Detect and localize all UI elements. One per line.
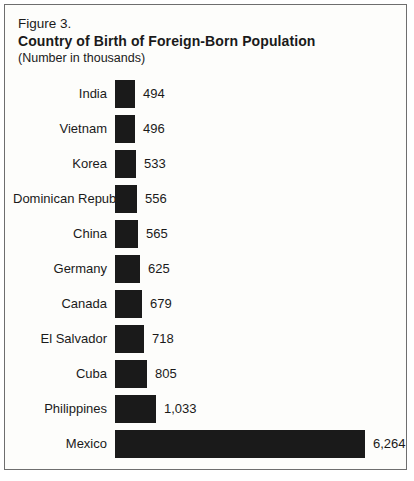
bar-row: India494 bbox=[5, 76, 406, 111]
bar-row: Cuba805 bbox=[5, 356, 406, 391]
bar-row: Mexico6,264 bbox=[5, 426, 406, 461]
category-label: Canada bbox=[13, 296, 115, 311]
bar-row: Korea533 bbox=[5, 146, 406, 181]
bar-chart: India494Vietnam496Korea533Dominican Repu… bbox=[5, 76, 406, 461]
chart-subtitle: (Number in thousands) bbox=[18, 50, 396, 66]
bar-row: Philippines1,033 bbox=[5, 391, 406, 426]
bar-row: Germany625 bbox=[5, 251, 406, 286]
value-label: 494 bbox=[143, 86, 165, 101]
value-label: 625 bbox=[148, 261, 170, 276]
category-label: Vietnam bbox=[13, 121, 115, 136]
bar bbox=[115, 115, 135, 143]
value-label: 718 bbox=[152, 331, 174, 346]
value-label: 496 bbox=[143, 121, 165, 136]
bar bbox=[115, 185, 137, 213]
bar-row: Vietnam496 bbox=[5, 111, 406, 146]
value-label: 1,033 bbox=[164, 401, 197, 416]
bar bbox=[115, 325, 144, 353]
category-label: Mexico bbox=[13, 436, 115, 451]
bar bbox=[115, 220, 138, 248]
value-label: 533 bbox=[144, 156, 166, 171]
bar-row: Canada679 bbox=[5, 286, 406, 321]
category-label: Philippines bbox=[13, 401, 115, 416]
bar bbox=[115, 395, 156, 423]
bar bbox=[115, 290, 142, 318]
bar-row: El Salvador718 bbox=[5, 321, 406, 356]
bar bbox=[115, 150, 136, 178]
bar-rows: India494Vietnam496Korea533Dominican Repu… bbox=[5, 76, 406, 461]
category-label: China bbox=[13, 226, 115, 241]
chart-title: Country of Birth of Foreign-Born Populat… bbox=[18, 32, 396, 50]
bar bbox=[115, 80, 135, 108]
bar bbox=[115, 255, 140, 283]
category-label: India bbox=[13, 86, 115, 101]
value-label: 565 bbox=[146, 226, 168, 241]
bar-row: China565 bbox=[5, 216, 406, 251]
bar bbox=[115, 430, 365, 458]
figure-box: Figure 3. Country of Birth of Foreign-Bo… bbox=[4, 4, 407, 470]
bar bbox=[115, 360, 147, 388]
figure-header: Figure 3. Country of Birth of Foreign-Bo… bbox=[5, 5, 406, 66]
category-label: Germany bbox=[13, 261, 115, 276]
bar-row: Dominican Republic556 bbox=[5, 181, 406, 216]
category-label: Korea bbox=[13, 156, 115, 171]
value-label: 805 bbox=[155, 366, 177, 381]
value-label: 679 bbox=[150, 296, 172, 311]
category-label: Dominican Republic bbox=[13, 191, 115, 206]
category-label: El Salvador bbox=[13, 331, 115, 346]
figure-number: Figure 3. bbox=[18, 15, 396, 32]
category-label: Cuba bbox=[13, 366, 115, 381]
value-label: 556 bbox=[145, 191, 167, 206]
value-label: 6,264 bbox=[373, 436, 406, 451]
